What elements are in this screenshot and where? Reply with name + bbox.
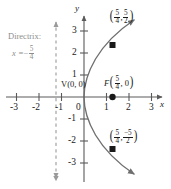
upper-x-numerator: 5 xyxy=(114,10,120,17)
lower-x-numerator: 5 xyxy=(114,130,120,137)
point-marker-upper xyxy=(110,42,116,48)
upper-y-denominator: 2 xyxy=(123,17,129,25)
x-tick-label-2: 2 xyxy=(126,103,131,113)
upper-x-denominator: 4 xyxy=(114,17,120,25)
y-tick-label-neg3: -3 xyxy=(68,158,76,168)
upper-y-fraction: 52 xyxy=(123,10,129,26)
directrix-equation-lhs: x = xyxy=(12,48,24,58)
lower-x-fraction: 54 xyxy=(114,130,120,146)
lower-x-denominator: 4 xyxy=(114,137,120,145)
x-tick-label-neg3: -3 xyxy=(10,103,18,113)
directrix-equation-sign: − xyxy=(24,48,29,58)
parabola-figure: y x -3 -2 -1 1 2 3 0 3 2 1 -1 -2 -3 Dire… xyxy=(0,0,171,189)
y-tick-label-3: 3 xyxy=(72,26,77,36)
focus-prefix: F xyxy=(104,78,109,88)
point-marker-lower xyxy=(110,146,116,152)
focus-marker xyxy=(109,94,115,100)
y-tick-label-neg1: -1 xyxy=(68,114,76,124)
focus-rest: , 0 xyxy=(121,78,130,88)
focus-x-fraction: 54 xyxy=(115,76,121,92)
y-tick-label-neg2: -2 xyxy=(68,136,76,146)
lower-y-numerator: −5 xyxy=(123,130,133,137)
x-tick-label-neg2: -2 xyxy=(32,103,40,113)
lower-point-label: (54,−52) xyxy=(109,130,138,146)
plot-canvas xyxy=(0,0,171,189)
upper-y-numerator: 5 xyxy=(123,10,129,17)
directrix-numerator: 5 xyxy=(29,46,35,53)
x-tick-label-1: 1 xyxy=(104,103,109,113)
lower-y-denominator: 2 xyxy=(123,137,133,145)
directrix-denominator: 4 xyxy=(29,53,35,61)
origin-label: 0 xyxy=(76,103,81,113)
x-tick-label-3: 3 xyxy=(149,103,154,113)
directrix-fraction: 54 xyxy=(29,46,35,62)
upper-x-fraction: 54 xyxy=(114,10,120,26)
y-axis-label: y xyxy=(75,4,79,13)
directrix-arrow-bottom xyxy=(53,176,58,181)
upper-point-label: (54,52) xyxy=(109,10,134,26)
lower-y-fraction: −52 xyxy=(123,130,133,146)
vertex-label: V(0, 0) xyxy=(61,80,86,89)
directrix-equation: x =−54 xyxy=(12,46,35,62)
focus-label: F(54, 0) xyxy=(104,76,134,92)
focus-x-denominator: 4 xyxy=(115,83,121,91)
x-tick-label-neg1: -1 xyxy=(55,103,63,113)
y-tick-label-2: 2 xyxy=(72,48,77,58)
directrix-title: Directrix: xyxy=(8,32,41,41)
x-axis-label: x xyxy=(160,100,164,109)
focus-x-numerator: 5 xyxy=(115,76,121,83)
